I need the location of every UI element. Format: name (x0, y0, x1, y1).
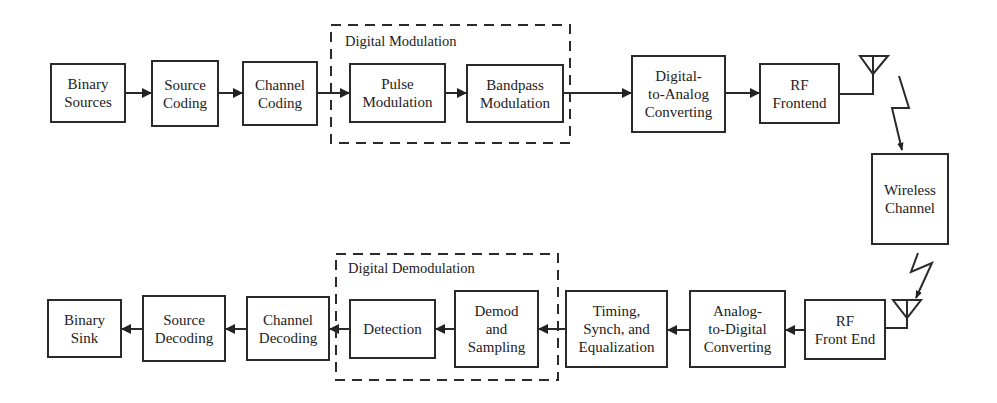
block-digital-to-analog: Digital- to-Analog Converting (631, 55, 726, 133)
block-binary-sources: Binary Sources (50, 63, 126, 123)
digital-demodulation-label: Digital Demodulation (348, 260, 475, 277)
block-analog-to-digital: Analog- to-Digital Converting (689, 290, 786, 368)
block-channel-decoding: Channel Decoding (246, 296, 330, 361)
block-timing-synch-equalization: Timing, Synch, and Equalization (565, 290, 668, 368)
block-rf-frontend: RF Frontend (759, 63, 840, 124)
lightning-tx-icon (892, 76, 909, 150)
block-channel-coding: Channel Coding (242, 61, 318, 126)
block-demod-sampling: Demod and Sampling (454, 290, 539, 368)
lightning-rx-icon (911, 253, 932, 298)
block-rf-front-end: RF Front End (804, 299, 886, 360)
digital-modulation-label: Digital Modulation (345, 33, 457, 50)
block-source-coding: Source Coding (151, 60, 219, 127)
block-wireless-channel: Wireless Channel (871, 153, 949, 245)
block-binary-sink: Binary Sink (47, 299, 122, 358)
block-detection: Detection (349, 299, 436, 359)
tx-antenna-feed (840, 56, 873, 94)
block-source-decoding: Source Decoding (142, 295, 226, 362)
block-bandpass-modulation: Bandpass Modulation (466, 64, 564, 123)
block-pulse-modulation: Pulse Modulation (349, 63, 446, 123)
